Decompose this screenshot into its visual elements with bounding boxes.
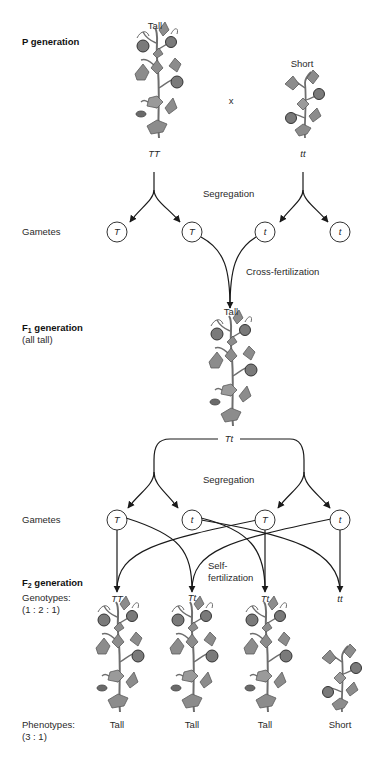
plant-f1 [209,310,257,426]
f2-phenotype-1: Tall [110,719,124,731]
f1-subtitle: (all tall) [22,334,53,346]
segregation-label-1: Segregation [203,188,254,200]
genotypes-ratio: (1 : 2 : 1) [22,604,60,616]
arrow-TT-to-gamete-2 [154,190,180,222]
gamete-allele-5: T [114,514,120,526]
parent-tall-genotype: TT [148,148,160,160]
f2-genotype-1: TT [111,593,123,605]
parent-tall-phenotype: Tall [148,20,162,32]
gametes-label-1: Gametes [22,226,61,238]
arrow-f1-to-gamete-6 [154,472,178,508]
diagram-canvas [0,0,376,758]
f1-title-suffix: generation [32,322,83,333]
cross-fertilization-label: Cross-fertilization [246,266,319,278]
gamete-allele-1: T [114,226,120,238]
arrow-TT-to-gamete-1 [130,172,154,222]
arrow-tt-to-gamete-3 [280,172,303,222]
cross-fert-line-left [201,237,230,308]
arrow-tt-to-gamete-4 [303,190,328,222]
self-fertilization-label-line2: fertilization [208,572,253,584]
f2-generation-title: F2 generation [22,577,83,589]
gamete-allele-6: t [191,514,194,526]
parent-short-phenotype: Short [291,58,314,70]
gamete-allele-2: T [189,226,195,238]
gamete-allele-3: t [264,226,267,238]
self-fertilization-label-line1: Self- [208,560,228,572]
f2-title-suffix: generation [32,577,83,588]
parent-short-genotype: tt [300,148,305,160]
arrow-f1-to-gamete-8 [304,472,330,508]
plant-f2-3 [244,596,292,712]
f2-phenotype-3: Tall [258,719,272,731]
cross-symbol: x [229,95,234,107]
f1-genotype: Tt [223,433,235,445]
f1-phenotype: Tall [224,306,238,318]
f2-genotype-3: Tt [261,593,269,605]
arrow-f1-to-gamete-5 [128,460,154,508]
f2-phenotype-4: Short [329,719,352,731]
genotypes-label: Genotypes: [22,592,71,604]
arrow-f1-to-gamete-7 [278,460,304,508]
bracket-left [154,439,218,460]
gametes-label-2: Gametes [22,514,61,526]
f1-generation-title: F1 generation [22,322,83,334]
f2-genotype-4: tt [337,593,342,605]
gamete-allele-7: T [262,514,268,526]
plant-tall-parent [135,22,183,138]
gamete-allele-8: t [339,514,342,526]
phenotypes-label: Phenotypes: [22,719,75,731]
f2-phenotype-2: Tall [185,719,199,731]
plant-f2-4 [322,644,362,712]
gamete-allele-4: t [339,226,342,238]
plant-f2-2 [170,596,218,712]
phenotypes-ratio: (3 : 1) [22,731,47,743]
bracket-right [240,439,304,460]
p-generation-title: P generation [22,36,79,48]
f2-genotype-2: Tt [188,592,196,604]
segregation-label-2: Segregation [203,474,254,486]
plant-short-parent [285,70,325,138]
plant-f2-1 [96,596,144,712]
